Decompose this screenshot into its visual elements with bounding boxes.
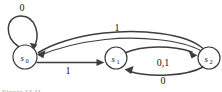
transition-label-s0-self-loop: 0 [20, 2, 25, 13]
state-subscript-s1: 1 [117, 58, 120, 65]
fsm-graph-canvas: s 0 s 1 s 2 0 1 0,1 0 1 [0, 0, 222, 92]
state-label-s1: s [112, 54, 116, 64]
state-node-s0[interactable]: s 0 [13, 45, 37, 69]
transition-s0-to-s1[interactable] [37, 59, 105, 66]
transition-label-s0-to-s1: 1 [66, 65, 71, 76]
transition-label-s2-to-s0: 1 [115, 22, 120, 33]
figure-caption: Figure 13.11 [2, 88, 41, 92]
state-label-s2: s [205, 54, 209, 64]
state-label-s0: s [21, 53, 25, 63]
transition-s0-to-s0[interactable] [8, 16, 37, 50]
arrowhead-s1-to-s2 [189, 51, 198, 59]
transition-label-s2-to-s1: 0 [161, 75, 166, 86]
state-diagram: s 0 s 1 s 2 0 1 0,1 0 1 Figure 13.11 [0, 0, 222, 92]
arrowhead-s0-to-s1 [97, 59, 105, 66]
state-node-s2[interactable]: s 2 [198, 47, 220, 69]
edge-path-s2-to-s1 [130, 67, 203, 75]
edge-path-s1-to-s2 [126, 47, 192, 53]
transition-label-s1-to-s2: 0,1 [157, 57, 170, 68]
edge-path-s0-self-loop [8, 16, 37, 48]
state-subscript-s2: 2 [210, 58, 213, 65]
state-node-s1[interactable]: s 1 [105, 47, 127, 69]
state-subscript-s0: 0 [26, 57, 29, 64]
